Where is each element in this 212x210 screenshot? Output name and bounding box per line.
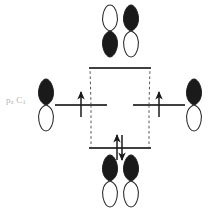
bonding-right-orbital [124, 155, 139, 207]
correlation-line-upper-left [90, 68, 91, 105]
left-electron-arrow-up [77, 91, 84, 117]
right-electron-arrow-up [155, 91, 162, 117]
right-atomic-level [133, 91, 185, 117]
bonding-orbital-pair [103, 155, 139, 207]
left-p-orbital [39, 79, 54, 131]
right-p-orbital [187, 79, 202, 131]
atomic-orbital-label: pz C1 [6, 95, 26, 105]
mo-interaction-diagram: pz C1 [0, 0, 212, 210]
ao-label-1: 1 [22, 98, 25, 105]
antibonding-right-orbital [124, 5, 139, 57]
left-atomic-level [55, 91, 107, 117]
diagram-canvas [0, 0, 212, 210]
ao-label-z: z [11, 98, 14, 105]
antibonding-left-orbital [103, 5, 118, 57]
correlation-lines [90, 68, 150, 148]
antibonding-orbital-pair [103, 5, 139, 57]
bonding-level [89, 134, 151, 161]
correlation-line-upper-right [149, 68, 150, 105]
bonding-left-orbital [103, 155, 118, 207]
